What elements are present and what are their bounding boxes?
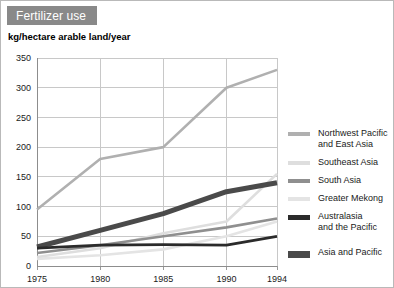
legend-swatch: [288, 132, 310, 136]
legend-swatch: [288, 197, 310, 201]
legend-label: Southeast Asia: [318, 157, 378, 168]
y-tick-label: 250: [16, 113, 31, 123]
legend-swatch: [288, 161, 310, 165]
legend-label: South Asia: [318, 175, 361, 186]
legend-item: South Asia: [288, 175, 392, 186]
legend-item: Asia and Pacific: [288, 247, 392, 258]
y-tick-label: 0: [26, 261, 31, 271]
y-tick-label: 100: [16, 202, 31, 212]
x-tick-label: 1990: [216, 274, 236, 284]
y-tick-label: 300: [16, 83, 31, 93]
x-tick-label: 1985: [153, 274, 173, 284]
y-tick-label: 200: [16, 142, 31, 152]
legend-label: Australasia and the Pacific: [318, 211, 377, 233]
legend-label: Northwest Pacific and East Asia: [318, 128, 388, 150]
legend-item: Northwest Pacific and East Asia: [288, 128, 392, 150]
y-tick-label: 350: [16, 53, 31, 63]
legend-swatch: [288, 251, 310, 258]
y-tick-label: 150: [16, 172, 31, 182]
x-tick-label: 1994: [267, 274, 287, 284]
x-tick-label: 1980: [90, 274, 110, 284]
legend-item: Australasia and the Pacific: [288, 211, 392, 233]
chart-legend: Northwest Pacific and East AsiaSoutheast…: [288, 128, 392, 265]
chart-figure: Fertilizer use kg/hectare arable land/ye…: [0, 0, 394, 288]
x-tick-label: 1975: [27, 274, 47, 284]
legend-item: Southeast Asia: [288, 157, 392, 168]
legend-swatch: [288, 215, 310, 220]
legend-label: Asia and Pacific: [318, 247, 382, 258]
legend-label: Greater Mekong: [318, 193, 383, 204]
legend-item: Greater Mekong: [288, 193, 392, 204]
y-tick-label: 50: [21, 231, 31, 241]
legend-swatch: [288, 179, 310, 183]
